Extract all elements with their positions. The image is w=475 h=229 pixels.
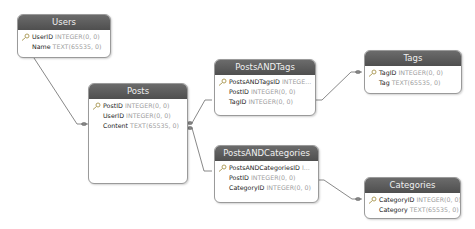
field-name: CategoryID xyxy=(379,196,414,203)
table-categories[interactable]: Categories CategoryIDINTEGER(0, 0) Categ… xyxy=(364,177,461,219)
primary-key-icon xyxy=(21,33,30,41)
relation-postsandtags-tags xyxy=(315,72,362,100)
field-row[interactable]: PostsANDCategoriesIDI... xyxy=(215,163,318,173)
table-postsandcategories[interactable]: PostsANDCategories PostsANDCategoriesIDI… xyxy=(214,145,319,203)
field-name: Tag xyxy=(379,79,390,86)
field-type: INTEGER(0, 0) xyxy=(416,196,460,203)
table-postsandtags[interactable]: PostsANDTags PostsANDTagsIDINTEGE... Pos… xyxy=(214,59,316,116)
field-type: INTEGE... xyxy=(282,78,311,85)
relation-posts-postsandcategories xyxy=(186,128,212,171)
field-name: UserID xyxy=(32,33,53,40)
field-type: TEXT(65535, 0) xyxy=(53,43,102,50)
field-name: Content xyxy=(103,122,128,129)
field-row[interactable]: PostIDINTEGER(0, 0) xyxy=(89,101,187,111)
field-type: TEXT(65535, 0) xyxy=(392,79,441,86)
field-name: PostID xyxy=(229,174,249,181)
connector-end-icon xyxy=(356,71,361,74)
field-name: UserID xyxy=(103,112,124,119)
field-name: TagID xyxy=(379,69,396,76)
field-name: Name xyxy=(32,43,51,50)
connector-end-icon xyxy=(188,127,193,130)
primary-key-icon xyxy=(368,196,377,204)
primary-key-icon xyxy=(218,164,227,172)
table-header: Users xyxy=(18,15,110,30)
field-row[interactable]: PostIDINTEGER(0, 0) xyxy=(215,173,318,183)
connector-end-icon xyxy=(82,123,87,126)
field-row[interactable]: UserIDINTEGER(0, 0) xyxy=(89,111,187,121)
primary-key-icon xyxy=(368,69,377,77)
field-type: INTEGER(0, 0) xyxy=(125,102,170,109)
table-header: Tags xyxy=(365,51,461,66)
field-row[interactable]: PostIDINTEGER(0, 0) xyxy=(215,87,315,97)
relation-users-posts xyxy=(20,52,88,124)
table-users[interactable]: Users UserIDINTEGER(0, 0) NameTEXT(65535… xyxy=(17,14,111,58)
field-row[interactable]: ContentTEXT(65535, 0) xyxy=(89,121,187,131)
field-type: TEXT(65535, 0) xyxy=(130,122,179,129)
field-type: TEXT(65535, 0) xyxy=(410,206,459,213)
field-row[interactable]: UserIDINTEGER(0, 0) xyxy=(18,32,110,42)
field-name: CategoryID xyxy=(229,184,264,191)
field-type: INTEGER(0, 0) xyxy=(248,98,293,105)
connector-end-icon xyxy=(356,198,361,201)
field-row[interactable]: CategoryIDINTEGER(0, 0) xyxy=(365,195,460,205)
field-row[interactable]: CategoryIDINTEGER(0, 0) xyxy=(215,183,318,193)
field-name: PostsANDTagsID xyxy=(229,78,280,85)
table-header: PostsANDCategories xyxy=(215,146,318,161)
table-header: Posts xyxy=(89,84,187,99)
connector-end-icon xyxy=(188,122,193,125)
relation-postsandcategories-categories xyxy=(317,180,362,199)
table-posts[interactable]: Posts PostIDINTEGER(0, 0) UserIDINTEGER(… xyxy=(88,83,188,184)
table-tags[interactable]: Tags TagIDINTEGER(0, 0) TagTEXT(65535, 0… xyxy=(364,50,462,94)
primary-key-icon xyxy=(218,78,227,86)
field-type: INTEGER(0, 0) xyxy=(398,69,443,76)
field-name: PostID xyxy=(229,88,249,95)
table-header: Categories xyxy=(365,178,460,193)
field-type: I... xyxy=(302,164,310,171)
field-name: TagID xyxy=(229,98,246,105)
relation-posts-postsandtags xyxy=(186,100,212,123)
field-row[interactable]: PostsANDTagsIDINTEGE... xyxy=(215,77,315,87)
field-row[interactable]: NameTEXT(65535, 0) xyxy=(18,42,110,52)
field-row[interactable]: TagIDINTEGER(0, 0) xyxy=(215,97,315,107)
primary-key-icon xyxy=(92,102,101,110)
field-row[interactable]: TagIDINTEGER(0, 0) xyxy=(365,68,461,78)
field-row[interactable]: TagTEXT(65535, 0) xyxy=(365,78,461,88)
field-row[interactable]: CategoryTEXT(65535, 0) xyxy=(365,205,460,215)
field-name: PostsANDCategoriesID xyxy=(229,164,300,171)
field-type: INTEGER(0, 0) xyxy=(55,33,100,40)
field-type: INTEGER(0, 0) xyxy=(266,184,311,191)
field-type: INTEGER(0, 0) xyxy=(251,174,296,181)
field-type: INTEGER(0, 0) xyxy=(126,112,171,119)
table-header: PostsANDTags xyxy=(215,60,315,75)
field-type: INTEGER(0, 0) xyxy=(251,88,296,95)
field-name: PostID xyxy=(103,102,123,109)
field-name: Category xyxy=(379,206,408,213)
